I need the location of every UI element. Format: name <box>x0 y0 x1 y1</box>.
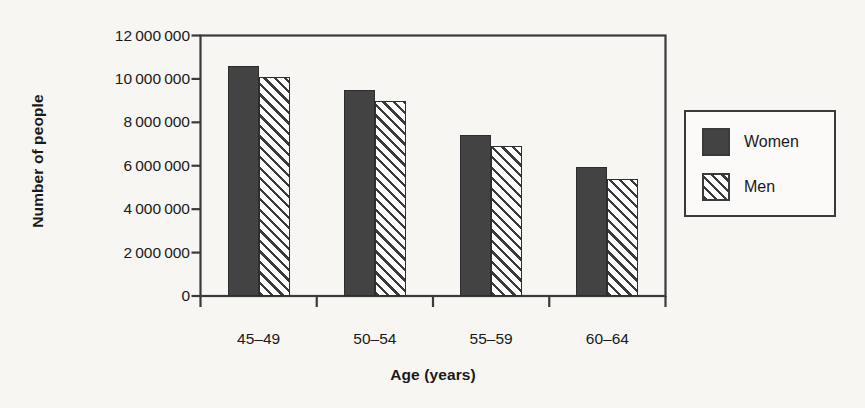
bar-women-60-64 <box>576 167 607 296</box>
legend-label-women: Women <box>744 133 799 151</box>
y-axis-ticks <box>192 36 201 297</box>
legend: Women Men <box>684 110 836 217</box>
legend-swatch-women-icon <box>702 128 730 156</box>
bar-men-55-59 <box>491 146 522 296</box>
bar-men-60-64 <box>607 179 638 296</box>
bar-women-50-54 <box>344 90 375 296</box>
legend-label-men: Men <box>744 178 775 196</box>
legend-item-women: Women <box>702 128 799 156</box>
x-axis-tick-label: 50–54 <box>315 330 435 348</box>
x-axis-tick-label: 60–64 <box>547 330 667 348</box>
bar-chart: Number of people 02 000 0004 000 0006 00… <box>0 0 865 408</box>
bar-men-45-49 <box>259 77 290 296</box>
bar-men-50-54 <box>375 101 406 296</box>
legend-swatch-men-icon <box>702 173 730 201</box>
x-axis-tick-label: 45–49 <box>199 330 319 348</box>
x-axis-title: Age (years) <box>200 366 666 384</box>
legend-item-men: Men <box>702 173 775 201</box>
bar-women-55-59 <box>460 135 491 296</box>
bar-women-45-49 <box>228 66 259 296</box>
x-axis-ticks <box>201 296 666 307</box>
x-axis-tick-label: 55–59 <box>431 330 551 348</box>
